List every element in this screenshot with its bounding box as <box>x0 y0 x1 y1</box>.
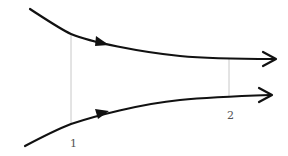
upper-mid-arrow-icon <box>95 36 109 46</box>
upper-streamline <box>30 9 274 59</box>
section-label-2: 2 <box>227 109 234 122</box>
section-label-1: 1 <box>70 137 77 150</box>
streamline-diagram: 1 2 <box>0 0 288 156</box>
